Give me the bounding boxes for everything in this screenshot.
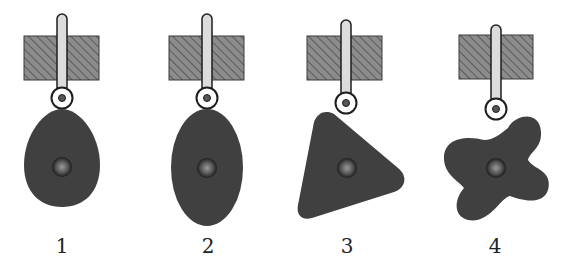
cam-shaft-bearing [52,157,72,177]
follower-rod [491,25,501,103]
roller-pin [493,106,500,113]
roller-pin [204,95,211,102]
mechanism-4 [444,25,549,220]
mechanism-3 [298,20,405,219]
follower-rod [202,14,212,94]
mechanism-1 [24,14,100,207]
roller-pin [59,95,66,102]
cam-diagram [0,0,569,270]
follower-rod [57,14,67,94]
follower-rod [341,20,351,98]
mechanism-label-3: 3 [332,234,362,258]
mechanism-label-2: 2 [193,234,223,258]
roller-pin [343,100,350,107]
cam-shaft-bearing [486,158,506,178]
cam-shaft-bearing [337,158,357,178]
cam-shaft-bearing [197,158,217,178]
mechanism-label-1: 1 [47,234,77,258]
mechanism-label-4: 4 [480,234,510,258]
mechanism-2 [169,14,244,226]
